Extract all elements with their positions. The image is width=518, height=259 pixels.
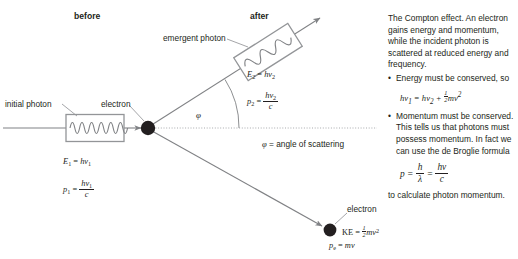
emergent-energy-equation: E2 = hν2 (247, 70, 275, 80)
notes-intro: The Compton effect. An electron gains en… (388, 13, 514, 71)
incident-nu-subscript: 1 (88, 160, 91, 167)
emergent-momentum-numerator: hν2 (263, 92, 278, 102)
bullet-item-energy: • Energy must be conserved, so (388, 73, 514, 85)
incident-momentum-equation: p1 = hν1 c (63, 180, 94, 200)
recoil-ke-label: KE (342, 228, 353, 237)
label-emergent-photon: emergent photon (163, 34, 226, 43)
label-after: after (250, 12, 269, 21)
label-scattered-electron: electron (347, 205, 377, 214)
recoil-electron-dot (324, 224, 337, 237)
bullet-marker-1: • (388, 73, 396, 85)
angle-arc (225, 80, 239, 129)
bullet-marker-2: • (388, 111, 396, 157)
notes-closing: to calculate photon momentum. (388, 190, 514, 202)
bullet-item-momentum: • Momentum must be conserved. This tells… (388, 111, 514, 157)
recoil-momentum-value: mv (345, 241, 355, 250)
label-before: before (74, 12, 100, 21)
de-broglie-equation: p = h λ = hν c (400, 163, 514, 185)
incident-momentum-denominator: c (79, 190, 94, 199)
incident-momentum-fraction: hν1 c (79, 180, 94, 200)
leader-recoil-electron (335, 213, 347, 224)
electron-at-rest-dot (141, 121, 155, 135)
notes-panel: The Compton effect. An electron gains en… (388, 13, 514, 201)
label-electron-at-rest: electron (101, 100, 131, 109)
emergent-momentum-denominator: c (263, 102, 278, 111)
angle-definition: φ = angle of scattering (262, 140, 344, 149)
de-broglie-fraction-c: hν c (435, 163, 448, 185)
angle-symbol: φ (196, 110, 201, 120)
angle-definition-text: = angle of scattering (267, 139, 344, 149)
recoil-ke-exponent: 2 (376, 227, 379, 234)
leader-emergent-photon (227, 39, 248, 47)
incident-momentum-numerator: hν1 (79, 180, 94, 190)
recoil-momentum-equation: pe = mv (329, 241, 355, 251)
emergent-nu-subscript: 2 (272, 73, 275, 80)
label-initial-photon: initial photon (5, 100, 52, 109)
emergent-momentum-fraction: hν2 c (263, 92, 278, 112)
bullet-text-energy: Energy must be conserved, so (396, 73, 514, 85)
compton-effect-figure: before after initial photon electron eme… (0, 0, 518, 259)
energy-conservation-equation: hν1 = hν2 + 1 2 mv2 (400, 90, 514, 108)
bullet-text-momentum: Momentum must be conserved. This tells u… (396, 111, 514, 157)
emergent-momentum-equation: p2 = hν2 c (247, 92, 278, 112)
recoil-ke-equation: KE = 1 2 mv2 (342, 225, 379, 238)
incident-energy-equation: E1 = hν1 (63, 157, 91, 167)
leader-electron-rest (129, 105, 144, 121)
